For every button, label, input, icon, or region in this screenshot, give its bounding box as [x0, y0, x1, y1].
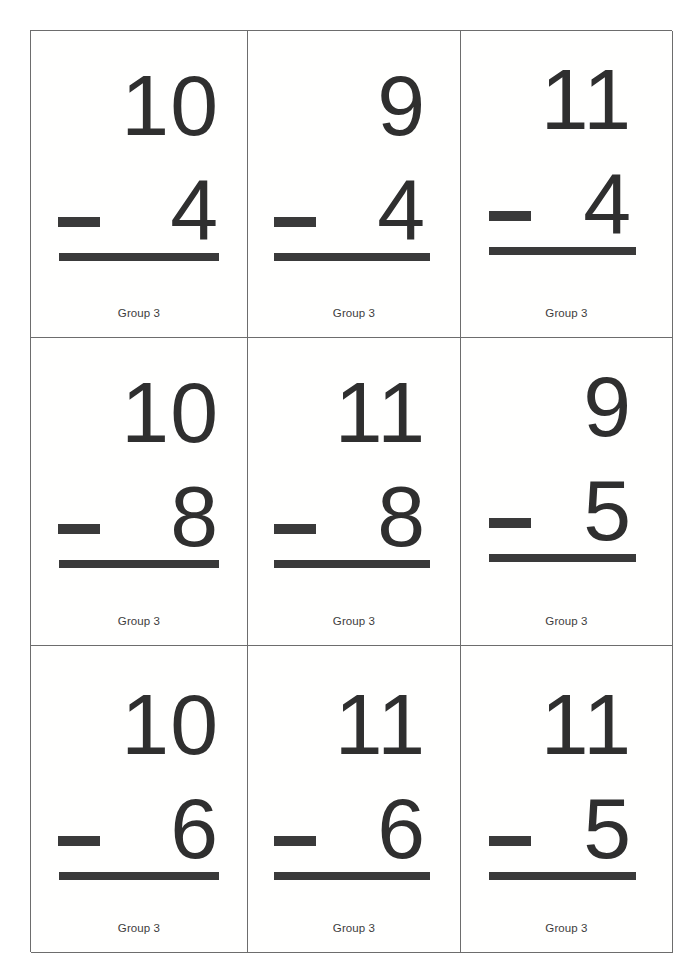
minus-sign-icon: [489, 518, 531, 528]
subtrahend: 4: [583, 155, 632, 251]
flashcard[interactable]: 10 6 Group 3: [31, 646, 248, 953]
minuend: 11: [541, 51, 632, 147]
flashcard[interactable]: 11 5 Group 3: [461, 646, 673, 953]
answer-rule-line: [59, 253, 219, 261]
answer-rule-line: [59, 560, 219, 568]
subtraction-problem: 10 6: [31, 676, 247, 888]
subtrahend: 4: [170, 161, 219, 257]
subtraction-problem: 11 4: [461, 51, 672, 263]
card-group-label: Group 3: [461, 922, 672, 934]
subtraction-problem: 11 8: [248, 364, 460, 576]
minuend: 9: [377, 57, 426, 153]
subtraction-problem: 10 8: [31, 364, 247, 576]
minus-sign-icon: [489, 836, 531, 846]
subtrahend: 6: [170, 780, 219, 876]
minuend-row: 10: [31, 364, 247, 460]
subtraction-problem: 9 4: [248, 57, 460, 269]
minuend-row: 11: [461, 676, 672, 772]
minuend-row: 11: [461, 51, 672, 147]
minus-sign-icon: [274, 217, 316, 227]
flashcard[interactable]: 9 5 Group 3: [461, 338, 673, 646]
answer-rule-line: [274, 560, 430, 568]
subtrahend-row: 5: [461, 780, 672, 876]
flashcard[interactable]: 10 4 Group 3: [31, 31, 248, 338]
card-group-label: Group 3: [31, 922, 247, 934]
card-group-label: Group 3: [248, 922, 460, 934]
subtraction-problem: 11 5: [461, 676, 672, 888]
minuend: 11: [335, 364, 426, 460]
subtraction-problem: 9 5: [461, 358, 672, 570]
minus-sign-icon: [58, 524, 100, 534]
minuend: 11: [541, 676, 632, 772]
minuend: 10: [121, 364, 219, 460]
card-group-label: Group 3: [31, 615, 247, 627]
subtrahend-row: 8: [248, 468, 460, 564]
minus-sign-icon: [274, 836, 316, 846]
card-group-label: Group 3: [248, 307, 460, 319]
minuend: 10: [121, 57, 219, 153]
minuend-row: 9: [461, 358, 672, 454]
answer-rule-line: [274, 872, 430, 880]
minuend-row: 11: [248, 364, 460, 460]
minus-sign-icon: [58, 217, 100, 227]
minuend: 10: [121, 676, 219, 772]
flashcard[interactable]: 11 8 Group 3: [248, 338, 461, 646]
subtrahend-row: 5: [461, 462, 672, 558]
minuend-row: 9: [248, 57, 460, 153]
subtrahend-row: 8: [31, 468, 247, 564]
card-group-label: Group 3: [461, 615, 672, 627]
subtrahend-row: 4: [248, 161, 460, 257]
minus-sign-icon: [489, 211, 531, 221]
subtrahend-row: 6: [31, 780, 247, 876]
flashcard[interactable]: 10 8 Group 3: [31, 338, 248, 646]
answer-rule-line: [59, 872, 219, 880]
subtrahend: 4: [377, 161, 426, 257]
card-group-label: Group 3: [31, 307, 247, 319]
minus-sign-icon: [274, 524, 316, 534]
flashcard[interactable]: 11 6 Group 3: [248, 646, 461, 953]
subtrahend-row: 4: [31, 161, 247, 257]
subtrahend: 6: [377, 780, 426, 876]
minuend-row: 10: [31, 57, 247, 153]
minuend-row: 10: [31, 676, 247, 772]
subtraction-problem: 11 6: [248, 676, 460, 888]
minuend: 9: [583, 358, 632, 454]
card-group-label: Group 3: [248, 615, 460, 627]
minuend: 11: [335, 676, 426, 772]
subtrahend: 8: [170, 468, 219, 564]
flashcard[interactable]: 11 4 Group 3: [461, 31, 673, 338]
subtrahend-row: 6: [248, 780, 460, 876]
subtrahend: 8: [377, 468, 426, 564]
subtrahend-row: 4: [461, 155, 672, 251]
answer-rule-line: [489, 247, 636, 255]
answer-rule-line: [489, 872, 636, 880]
minuend-row: 11: [248, 676, 460, 772]
flashcard-sheet: 10 4 Group 3 9 4 Group 3 11: [30, 30, 672, 952]
answer-rule-line: [489, 554, 636, 562]
subtrahend: 5: [583, 462, 632, 558]
answer-rule-line: [274, 253, 430, 261]
card-group-label: Group 3: [461, 307, 672, 319]
subtraction-problem: 10 4: [31, 57, 247, 269]
flashcard[interactable]: 9 4 Group 3: [248, 31, 461, 338]
minus-sign-icon: [58, 836, 100, 846]
subtrahend: 5: [583, 780, 632, 876]
